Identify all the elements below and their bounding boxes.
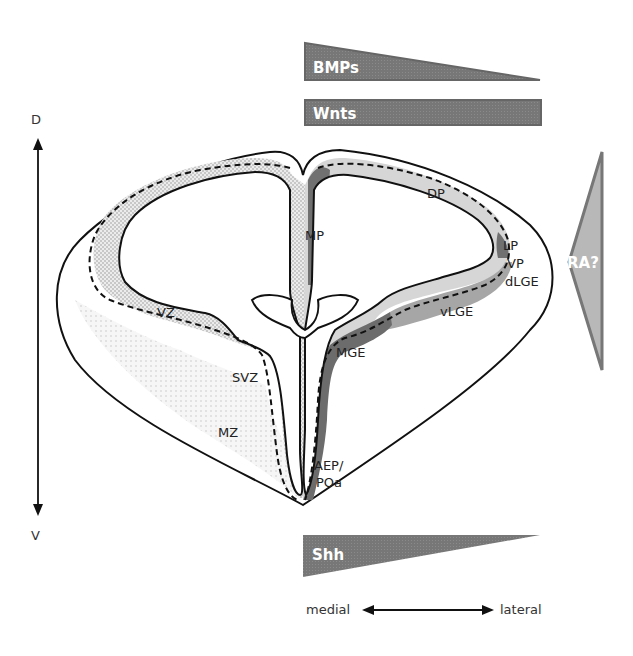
mediolateral-axis: medial lateral [306, 602, 542, 617]
lateral-label: lateral [500, 602, 542, 617]
wnts-label: Wnts [313, 105, 356, 123]
wnts-gradient: Wnts [305, 100, 541, 125]
label-svz: SVZ [232, 370, 258, 385]
telencephalon-diagram: D V BMPs Wnts RA? [0, 0, 633, 656]
shh-gradient: Shh [303, 535, 540, 577]
dorsal-label: D [31, 112, 41, 127]
arrow-left-icon [362, 605, 374, 615]
label-vz: VZ [157, 305, 175, 320]
brain-section: MP DP LP VP dLGE vLGE MGE AEP/ POa VZ SV… [57, 150, 553, 505]
label-poa: POa [316, 475, 342, 490]
arrow-right-icon [482, 605, 494, 615]
bmps-label: BMPs [313, 59, 359, 77]
label-lp: LP [503, 238, 518, 253]
arrow-up-icon [33, 138, 43, 150]
label-dlge: dLGE [505, 274, 539, 289]
arrow-down-icon [33, 504, 43, 516]
label-mp: MP [305, 228, 324, 243]
ventral-label: V [31, 528, 40, 543]
label-vp: VP [507, 256, 524, 271]
label-vlge: vLGE [440, 304, 473, 319]
label-dp: DP [427, 186, 445, 201]
label-mge: MGE [336, 345, 366, 360]
bmps-gradient: BMPs [305, 43, 540, 80]
ra-label: RA? [567, 254, 599, 272]
dorsoventral-axis: D V [31, 112, 43, 543]
medial-label: medial [306, 602, 350, 617]
label-aep: AEP/ [314, 458, 344, 473]
ra-gradient: RA? [567, 152, 602, 370]
shh-label: Shh [312, 546, 344, 564]
label-mz: MZ [218, 425, 238, 440]
